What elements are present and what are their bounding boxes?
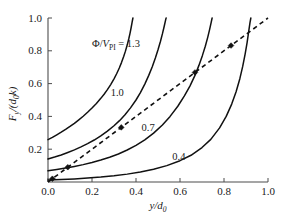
- y-tick-label-0.4: 0.4: [28, 110, 42, 122]
- x-tick-label-0.0: 0.0: [41, 185, 55, 197]
- x-tick-label-0.8: 0.8: [217, 185, 231, 197]
- curve-label-1p0: 1.0: [111, 87, 124, 98]
- x-tick-label-0.4: 0.4: [129, 185, 143, 197]
- dashed-reference-line: [48, 18, 268, 182]
- svg-text:Fy/(d0k): Fy/(d0k): [6, 86, 21, 122]
- reference-line-group: [48, 18, 268, 182]
- x-axis-title: y/d0: [148, 199, 166, 214]
- x-tick-label-1.0: 1.0: [261, 185, 275, 197]
- y-tick-label-0.8: 0.8: [28, 44, 42, 56]
- curve-0p4: [48, 18, 251, 180]
- curve-label-1p3: Φ/VPI = 1.3: [92, 38, 140, 52]
- curve-label-0p4: 0.4: [172, 151, 186, 162]
- chart-figure: 0.20.40.60.81.0 0.00.20.40.60.81.0 Φ/VPI…: [0, 0, 284, 219]
- chart-plot-area: 0.20.40.60.81.0 0.00.20.40.60.81.0 Φ/VPI…: [0, 0, 284, 219]
- curve-label-0p7: 0.7: [142, 122, 155, 133]
- x-tick-label-0.6: 0.6: [173, 185, 187, 197]
- y-tick-label-0.6: 0.6: [28, 77, 42, 89]
- x-tick-label-0.2: 0.2: [85, 185, 99, 197]
- data-curves: [48, 18, 251, 180]
- x-axis-title-den-sub: 0: [163, 205, 167, 214]
- y-tick-label-0.2: 0.2: [28, 143, 42, 155]
- y-axis-tick-labels: 0.20.40.60.81.0: [28, 12, 42, 155]
- y-tick-label-1.0: 1.0: [28, 12, 42, 24]
- y-axis-ticks: [48, 18, 52, 149]
- y-axis-title: Fy/(d0k): [6, 86, 21, 122]
- x-axis-tick-labels: 0.00.20.40.60.81.0: [41, 185, 275, 197]
- curve-1p3: [48, 18, 133, 140]
- svg-text:y/d0: y/d0: [148, 199, 166, 214]
